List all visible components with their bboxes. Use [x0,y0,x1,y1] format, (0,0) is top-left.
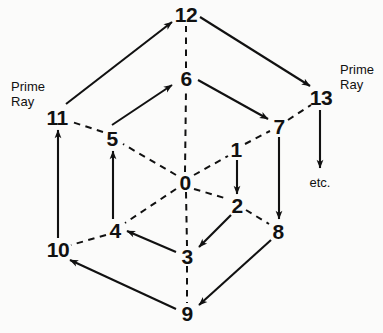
node-7[interactable]: 7 [273,116,284,137]
node-11[interactable]: 11 [46,107,67,128]
node-12[interactable]: 12 [175,4,197,25]
arrow-edge-6-7 [198,80,268,119]
dashed-edge-0-3 [186,192,187,246]
arrow-edge-8-9 [199,240,271,305]
node-9[interactable]: 9 [181,303,192,324]
dashed-edge-5-11 [69,121,103,132]
node-13[interactable]: 13 [310,87,332,108]
number-lattice-diagram: 12 6 11 13 5 7 1 0 2 4 8 10 3 9 Prime Ra… [0,0,383,333]
node-0[interactable]: 0 [179,172,190,193]
dashed-edge-4-10 [71,235,106,245]
dashed-edge-1-7 [245,131,270,144]
dashed-edge-0-4 [125,189,176,223]
node-6[interactable]: 6 [180,68,191,89]
node-8[interactable]: 8 [272,221,283,242]
arrow-edge-11-12 [66,22,172,104]
dashed-edge-0-6 [185,89,186,172]
dashed-edge-2-8 [246,210,269,224]
node-3[interactable]: 3 [181,246,192,267]
dashed-edge-0-5 [123,144,176,175]
node-5[interactable]: 5 [106,128,117,149]
node-1[interactable]: 1 [230,139,241,160]
diagram-canvas [0,0,383,333]
node-4[interactable]: 4 [109,220,120,241]
dashed-edge-0-2 [194,189,228,199]
dashed-edge-7-13 [288,105,311,120]
arrow-edge-12-13 [200,17,310,86]
prime-ray-right-label: Prime Ray [340,63,374,92]
node-2[interactable]: 2 [231,195,242,216]
arrow-edge-3-4 [127,231,176,252]
node-10[interactable]: 10 [47,239,69,260]
arrow-edge-9-10 [70,260,176,309]
prime-ray-left-label: Prime Ray [11,80,45,109]
etc-label: etc. [310,176,331,191]
arrow-edge-5-6 [112,85,172,125]
dashed-edge-0-1 [194,156,228,175]
arrow-edge-2-3 [199,215,231,247]
